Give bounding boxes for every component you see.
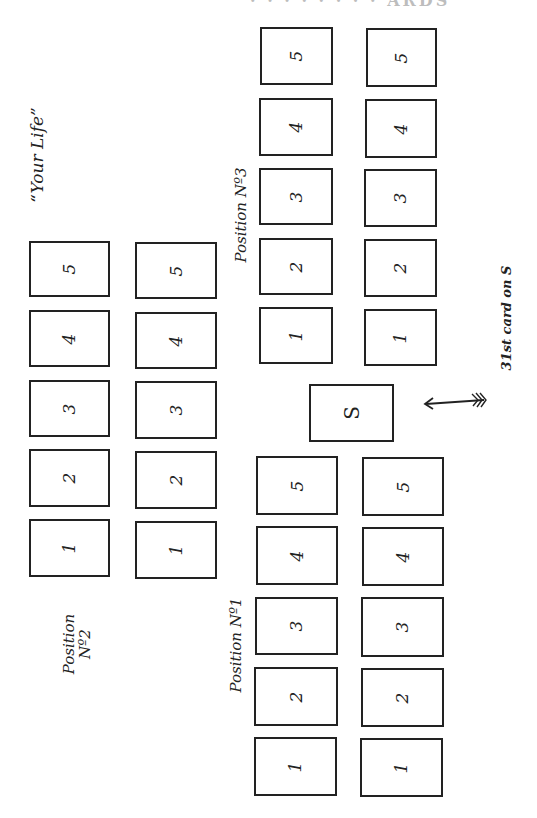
card-pos2-b-4: 4 — [135, 312, 217, 369]
card-pos3-b-5: 5 — [366, 28, 437, 87]
your-life-label: “Your Life” — [29, 107, 47, 202]
card-pos2-a-3: 3 — [29, 380, 110, 437]
card-pos1-b-1: 1 — [360, 738, 443, 797]
center-card-s: S — [309, 384, 394, 442]
card-pos3-a-3: 3 — [259, 168, 333, 225]
card-pos1-b-3: 3 — [361, 597, 444, 657]
card-pos2-a-1: 1 — [29, 519, 110, 577]
position-2-label-line2: Nº2 — [78, 614, 94, 675]
card-pos1-a-3: 3 — [255, 597, 338, 655]
annotation-31st-card: 31st card on S — [500, 266, 514, 371]
card-pos2-a-4: 4 — [29, 310, 110, 367]
card-pos2-b-1: 1 — [135, 521, 217, 579]
position-2-label: Position Nº2 — [62, 614, 94, 675]
card-pos2-a-2: 2 — [29, 449, 110, 507]
card-pos1-b-4: 4 — [362, 527, 444, 586]
card-pos2-b-5: 5 — [135, 242, 217, 299]
card-pos1-a-4: 4 — [256, 526, 338, 585]
card-pos3-a-5: 5 — [260, 27, 333, 85]
card-pos3-a-4: 4 — [259, 98, 333, 156]
card-pos3-a-2: 2 — [259, 238, 333, 295]
card-pos3-a-1: 1 — [259, 307, 333, 364]
card-layout-diagram: · · · · · · · · ARDS “Your Life” Positio… — [0, 0, 537, 818]
card-pos1-a-5: 5 — [256, 456, 338, 515]
card-pos1-a-1: 1 — [254, 737, 337, 796]
card-pos2-b-2: 2 — [135, 451, 217, 509]
card-pos1-b-2: 2 — [361, 668, 444, 727]
card-pos3-b-4: 4 — [365, 99, 437, 158]
position-1-label: Position Nº1 — [229, 597, 245, 692]
card-pos3-b-2: 2 — [364, 239, 437, 297]
position-3-label: Position Nº3 — [234, 167, 250, 262]
card-pos3-b-1: 1 — [364, 309, 437, 366]
card-pos2-a-5: 5 — [29, 241, 110, 297]
card-pos1-b-5: 5 — [362, 457, 444, 516]
cropped-title: · · · · · · · · ARDS — [250, 0, 450, 10]
card-pos1-a-2: 2 — [254, 667, 338, 726]
card-pos3-b-3: 3 — [364, 169, 437, 227]
card-pos2-b-3: 3 — [135, 381, 217, 439]
arrow-icon — [420, 390, 490, 415]
